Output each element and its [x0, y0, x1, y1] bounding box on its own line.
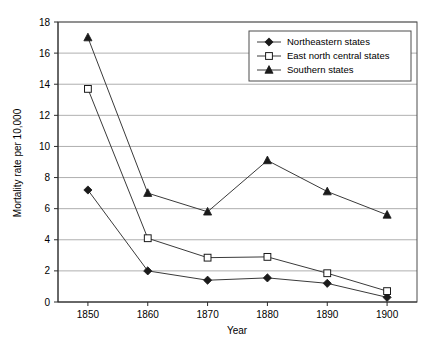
datapoint-east-north-central-states-1890 — [324, 270, 331, 277]
y-tick-label-8: 8 — [44, 172, 50, 183]
x-tick-label-1870: 1870 — [196, 309, 219, 320]
legend-marker-east-north-central-states — [266, 53, 273, 60]
x-tick-label-1880: 1880 — [256, 309, 279, 320]
datapoint-east-north-central-states-1880 — [264, 253, 271, 260]
y-tick-label-6: 6 — [44, 203, 50, 214]
chart-container: 024681012141618 185018601870188018901900… — [0, 0, 431, 355]
x-axis-title: Year — [227, 325, 248, 336]
datapoint-east-north-central-states-1900 — [384, 288, 391, 295]
datapoint-east-north-central-states-1870 — [204, 254, 211, 261]
y-tick-label-2: 2 — [44, 265, 50, 276]
y-tick-label-16: 16 — [39, 48, 51, 59]
x-tick-label-1850: 1850 — [77, 309, 100, 320]
legend-label-southern-states: Southern states — [287, 64, 354, 75]
y-tick-label-0: 0 — [44, 297, 50, 308]
x-tick-label-1860: 1860 — [137, 309, 160, 320]
y-axis-title: Mortality rate per 10,000 — [12, 108, 23, 217]
x-tick-label-1900: 1900 — [376, 309, 399, 320]
datapoint-east-north-central-states-1860 — [144, 235, 151, 242]
legend-label-east-north-central-states: East north central states — [287, 50, 390, 61]
chart-legend: Northeastern statesEast north central st… — [249, 31, 411, 81]
y-tick-label-4: 4 — [44, 234, 50, 245]
mortality-rate-line-chart: 024681012141618 185018601870188018901900… — [0, 0, 431, 355]
y-tick-label-14: 14 — [39, 79, 51, 90]
y-tick-label-10: 10 — [39, 141, 51, 152]
datapoint-east-north-central-states-1850 — [85, 85, 92, 92]
y-tick-label-12: 12 — [39, 110, 51, 121]
y-tick-label-18: 18 — [39, 17, 51, 28]
x-tick-label-1890: 1890 — [316, 309, 339, 320]
legend-label-northeastern-states: Northeastern states — [287, 36, 370, 47]
